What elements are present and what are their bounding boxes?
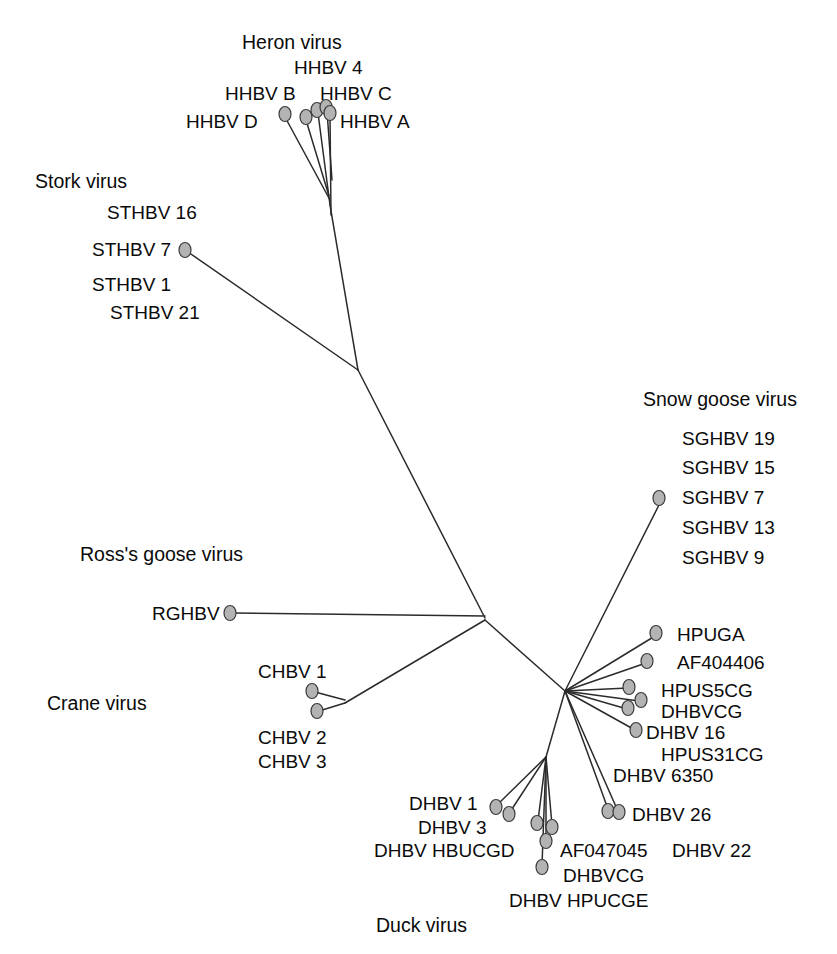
taxon-label-sthbv-1: STHBV 1 <box>92 275 171 294</box>
taxon-label-dhbv-hbucgd: DHBV HBUCGD <box>374 841 514 860</box>
tip-node-dhbv-22 <box>613 805 625 820</box>
branch-dhbv22 <box>565 691 617 809</box>
tip-node-dhbv-26 <box>602 804 614 819</box>
tip-node-hhbv-a <box>324 106 336 121</box>
taxon-label-chbv-2: CHBV 2 <box>258 728 327 747</box>
tip-node-dhbv-1 <box>490 800 502 815</box>
taxon-label-chbv-3: CHBV 3 <box>258 752 327 771</box>
tip-node-chbv-23 <box>311 704 323 719</box>
tip-node-dhbv-16 <box>622 701 634 716</box>
taxon-label-af404406: AF404406 <box>677 653 765 672</box>
branch-duck-left-stem <box>546 691 565 757</box>
taxon-label-dhbv-16: DHBV 16 <box>646 723 725 742</box>
taxon-label-dhbv-3: DHBV 3 <box>418 818 487 837</box>
phylogenetic-tree-figure: Heron virus Stork virus Snow goose virus… <box>0 0 837 954</box>
branch-dhbv16 <box>565 691 627 709</box>
tip-node-dhbv-hbucgd <box>531 816 543 831</box>
tip-node-af404406 <box>641 654 653 669</box>
taxon-label-sghbv-9: SGHBV 9 <box>682 548 764 567</box>
tip-node-hpuga <box>650 626 662 641</box>
taxon-label-hhbv-d: HHBV D <box>186 112 258 131</box>
taxon-label-rghbv: RGHBV <box>152 604 220 623</box>
tip-node-sthbv <box>179 243 191 258</box>
branch-stork-stem <box>188 252 358 370</box>
group-label-snow-goose: Snow goose virus <box>643 390 797 409</box>
branch-dhbv26 <box>565 691 608 809</box>
taxon-label-sghbv-7: SGHBV 7 <box>682 488 764 507</box>
tip-node-af047045 <box>546 820 558 835</box>
group-label-duck: Duck virus <box>376 916 467 935</box>
branch-hhbv-b <box>306 120 329 196</box>
group-label-ross-goose: Ross's goose virus <box>80 545 243 564</box>
tree-tip-nodes <box>179 100 665 875</box>
tip-node-hhbv-d <box>279 107 291 122</box>
branch-junction-center <box>358 370 485 618</box>
taxon-label-af047045: AF047045 <box>560 841 648 860</box>
tip-node-chbv-1 <box>306 684 318 699</box>
branch-hhbv-a <box>330 116 331 215</box>
taxon-label-dhbv-hpucge: DHBV HPUCGE <box>509 891 648 910</box>
taxon-label-dhbv-26: DHBV 26 <box>632 805 711 824</box>
taxon-label-hpuga: HPUGA <box>677 625 745 644</box>
taxon-label-sghbv-13: SGHBV 13 <box>682 518 775 537</box>
taxon-label-sghbv-15: SGHBV 15 <box>682 458 775 477</box>
taxon-label-chbv-1: CHBV 1 <box>258 662 327 681</box>
tip-node-hpus5cg <box>623 680 635 695</box>
tip-node-dhbv-hpucge <box>536 860 548 875</box>
tip-node-sghbv <box>653 491 665 506</box>
taxon-label-hhbv-c: HHBV C <box>320 84 392 103</box>
taxon-label-sthbv-16: STHBV 16 <box>107 203 197 222</box>
taxon-label-dhbv-1: DHBV 1 <box>409 794 478 813</box>
taxon-label-hhbv-b: HHBV B <box>225 84 296 103</box>
group-label-stork: Stork virus <box>35 172 127 191</box>
branch-center-duckhub <box>485 620 565 691</box>
taxon-label-hhbv-4: HHBV 4 <box>294 58 363 77</box>
tip-node-rghbv <box>224 606 236 621</box>
branch-af047045 <box>546 757 552 825</box>
taxon-label-hhbv-a: HHBV A <box>340 112 410 131</box>
taxon-label-dhbv-22: DHBV 22 <box>672 841 751 860</box>
taxon-label-hpus5cg: HPUS5CG <box>661 681 753 700</box>
taxon-label-sthbv-7: STHBV 7 <box>92 240 171 259</box>
taxon-label-dhbvcg-right: DHBVCG <box>661 702 742 721</box>
group-label-crane: Crane virus <box>47 694 147 713</box>
branch-crane-stem <box>345 620 485 703</box>
branch-heron-stem <box>330 205 358 370</box>
tip-node-hhbv-b <box>300 110 312 125</box>
taxon-label-sghbv-19: SGHBV 19 <box>682 429 775 448</box>
taxon-label-sthbv-21: STHBV 21 <box>110 303 200 322</box>
branch-dhbv1 <box>497 757 546 805</box>
tip-node-dhbv-3 <box>503 807 515 822</box>
tip-node-dhbvcg-right <box>635 693 647 708</box>
tip-node-dhbvcg-bottom <box>540 834 552 849</box>
group-label-heron: Heron virus <box>242 33 342 52</box>
taxon-label-dhbv-6350: DHBV 6350 <box>613 766 713 785</box>
taxon-label-dhbvcg-bottom: DHBVCG <box>563 866 644 885</box>
taxon-label-hpus31cg: HPUS31CG <box>661 745 763 764</box>
branch-chbv1 <box>315 692 345 700</box>
tip-node-hpus31cg <box>630 723 642 738</box>
branch-rghbv <box>234 613 485 616</box>
